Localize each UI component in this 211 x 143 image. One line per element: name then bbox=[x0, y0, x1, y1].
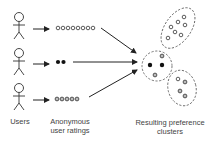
users-label-text: Users bbox=[10, 117, 30, 126]
users-label: Users bbox=[5, 117, 35, 126]
arrow-icon bbox=[101, 28, 136, 53]
ratings-label: Anonymous user ratings bbox=[44, 117, 96, 135]
user-icon bbox=[13, 13, 25, 40]
cluster-middle bbox=[142, 51, 172, 81]
rating-circles-filled bbox=[56, 60, 66, 64]
clusters-label: Resulting preference clusters bbox=[130, 118, 210, 136]
ratings-label-line1: Anonymous bbox=[44, 117, 96, 126]
arrow-icon bbox=[89, 70, 137, 97]
cluster-bottom bbox=[164, 67, 200, 109]
rating-circles-hollow bbox=[56, 26, 95, 30]
user-icon bbox=[13, 49, 25, 76]
cluster-top bbox=[154, 2, 202, 55]
clusters-label-line1: Resulting preference bbox=[130, 118, 210, 127]
clusters-label-line2: clusters bbox=[130, 127, 210, 136]
ratings-label-line2: user ratings bbox=[44, 126, 96, 135]
rating-circles-hatched bbox=[55, 97, 79, 101]
user-icon bbox=[13, 84, 25, 111]
